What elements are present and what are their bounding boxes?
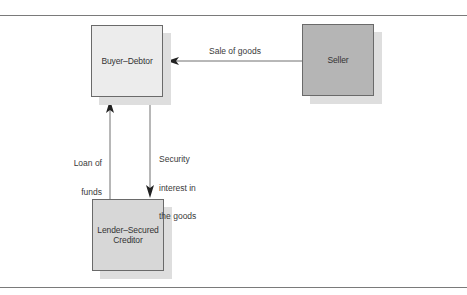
edge-label-line: Loan of [66,159,102,169]
node-label: Buyer–Debtor [101,56,152,66]
node-label: Seller [327,55,348,65]
edge-label-line: the goods [159,212,196,222]
edge-label-loan-of-funds: Loan of funds [66,140,102,207]
edge-label-security-interest: Security interest in the goods [159,136,196,231]
node-label-line2: Creditor [113,235,142,245]
edge-label-line: Security [159,155,196,165]
edge-loan-of-funds [106,100,114,199]
node-lender-wrap: Lender–Secured Creditor [92,199,164,271]
edge-label-line: interest in [159,184,196,194]
node-lender-secured-creditor: Lender–Secured Creditor [92,199,164,271]
edge-label-sale-of-goods: Sale of goods [209,47,261,57]
node-buyer-debtor: Buyer–Debtor [91,25,163,97]
node-label-line1: Lender–Secured [97,225,158,235]
node-seller-wrap: Seller [302,24,374,96]
edge-label-line: funds [66,188,102,198]
node-seller: Seller [302,24,374,96]
edge-sale-of-goods [167,57,302,65]
page-edge-mark [463,35,467,44]
node-buyer-debtor-wrap: Buyer–Debtor [91,25,163,97]
edge-security-interest [146,97,154,198]
